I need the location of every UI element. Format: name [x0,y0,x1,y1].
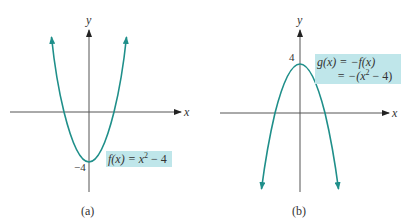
panel-caption: (a) [81,204,94,218]
panel-a: y x −4 f(x) = x2 − 4 (a) [10,13,190,218]
panel-b: y x 4 g(x) = −f(x) = −(x2 − 4) (b) [220,13,401,218]
x-axis-label: x [183,105,190,119]
function-label-line1: g(x) = −f(x) [317,55,375,69]
parabola-curve [89,37,127,162]
panel-caption: (b) [292,204,306,218]
y-axis-label: y [85,13,92,27]
figure: y x −4 f(x) = x2 − 4 (a) y x 4 g(x) = −f… [0,0,410,223]
parabola-curve [52,37,90,162]
function-label-line2: = −(x2 − 4) [337,68,392,83]
y-tick-label: −4 [74,161,86,173]
y-tick-label: 4 [289,51,295,63]
x-axis-label: x [391,106,398,120]
parabola-curve [262,64,301,189]
y-axis-label: y [296,13,303,27]
function-label: f(x) = x2 − 4 [108,151,167,166]
